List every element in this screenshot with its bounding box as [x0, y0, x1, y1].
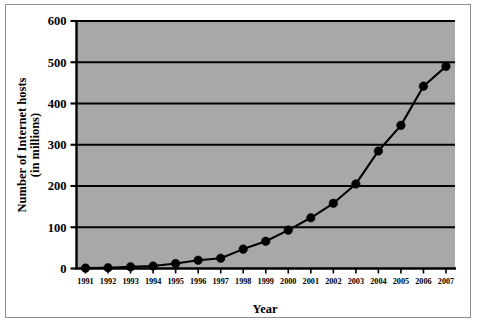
plot-container: 0100200300400500600 19911992199319941995… — [0, 0, 478, 326]
x-tick-label-1994: 1994 — [145, 277, 161, 286]
y-tick-label-300: 300 — [48, 138, 67, 152]
data-point-1999 — [261, 237, 270, 246]
x-tick-label-1992: 1992 — [100, 277, 116, 286]
data-point-2006 — [419, 82, 428, 91]
data-point-2004 — [374, 147, 383, 156]
data-point-1995 — [171, 259, 180, 268]
data-point-1993 — [126, 263, 135, 272]
y-axis-ticks: 0100200300400500600 — [48, 14, 77, 276]
x-tick-label-1998: 1998 — [235, 277, 251, 286]
y-tick-label-100: 100 — [48, 221, 67, 235]
y-tick-label-600: 600 — [48, 14, 67, 28]
data-point-2001 — [307, 213, 316, 222]
x-tick-label-1991: 1991 — [77, 277, 93, 286]
data-point-2002 — [329, 199, 338, 208]
data-point-1991 — [81, 264, 90, 273]
y-tick-label-400: 400 — [48, 97, 67, 111]
data-point-2000 — [284, 226, 293, 235]
x-tick-label-2006: 2006 — [415, 277, 431, 286]
data-point-1994 — [149, 262, 158, 271]
data-point-2003 — [352, 180, 361, 189]
line-chart-svg: 0100200300400500600 19911992199319941995… — [0, 0, 478, 326]
x-tick-label-1999: 1999 — [258, 277, 274, 286]
x-axis-title: Year — [253, 302, 278, 316]
x-axis-ticks: 1991199219931994199519961997199819992000… — [77, 269, 454, 287]
x-tick-label-2004: 2004 — [370, 277, 386, 286]
x-tick-label-1997: 1997 — [213, 277, 229, 286]
x-tick-label-2001: 2001 — [303, 277, 319, 286]
x-tick-label-2003: 2003 — [348, 277, 364, 286]
x-tick-label-2002: 2002 — [325, 277, 341, 286]
data-point-1998 — [239, 245, 248, 254]
x-tick-label-2007: 2007 — [438, 277, 454, 286]
x-tick-label-1995: 1995 — [167, 277, 183, 286]
y-axis-title-group: Number of Internet hosts (in millions) — [15, 77, 42, 212]
data-point-2007 — [442, 62, 451, 71]
data-point-1992 — [104, 263, 113, 272]
chart-figure: 0100200300400500600 19911992199319941995… — [0, 0, 478, 326]
data-point-2005 — [397, 121, 406, 130]
y-tick-label-500: 500 — [48, 56, 67, 70]
data-point-1996 — [194, 256, 203, 265]
y-axis-title-line2: (in millions) — [28, 113, 42, 177]
y-tick-label-200: 200 — [48, 179, 67, 193]
x-tick-label-1993: 1993 — [122, 277, 138, 286]
y-tick-label-0: 0 — [60, 262, 66, 276]
x-tick-label-2005: 2005 — [393, 277, 409, 286]
x-tick-label-1996: 1996 — [190, 277, 206, 286]
data-point-1997 — [216, 254, 225, 263]
x-tick-label-2000: 2000 — [280, 277, 296, 286]
